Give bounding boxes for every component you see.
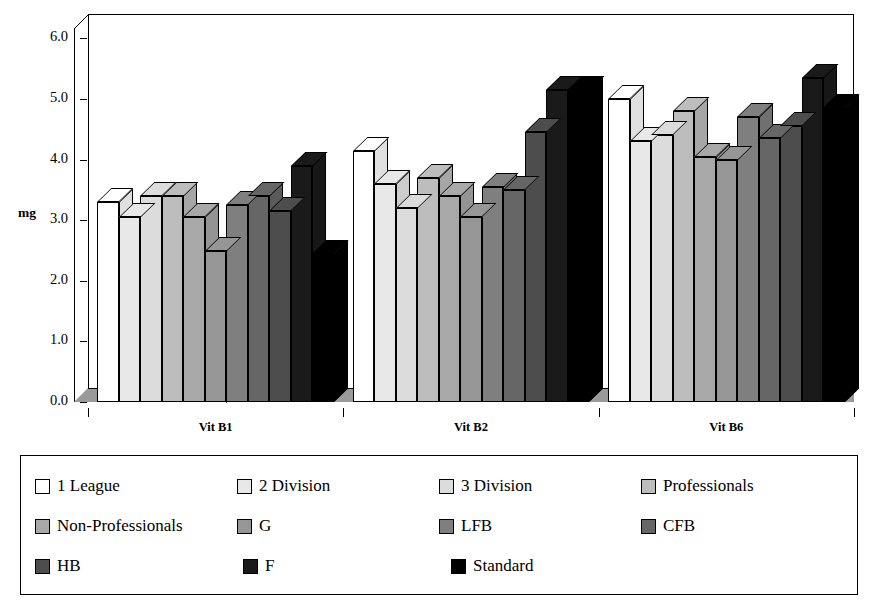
bar-front-face	[608, 99, 630, 402]
legend-swatch-icon	[641, 519, 656, 534]
bar-front-face	[183, 217, 205, 402]
legend-swatch-icon	[35, 519, 50, 534]
bar-front-face	[759, 138, 781, 402]
legend-swatch-icon	[237, 479, 252, 494]
bar-front-face	[482, 187, 504, 402]
y-axis-tick	[80, 160, 87, 161]
y-axis-tick-label: 4.0	[26, 153, 68, 163]
legend-swatch-icon	[641, 479, 656, 494]
y-axis-tick-label: 1.0	[26, 334, 68, 344]
bar-front-face	[374, 184, 396, 402]
bar-front-face	[439, 196, 461, 402]
bar-front-face	[802, 78, 824, 402]
legend-label: Professionals	[663, 477, 754, 495]
y-axis-tick	[80, 402, 87, 403]
y-axis-tick	[80, 38, 87, 39]
y-axis-tick	[80, 281, 87, 282]
legend-item[interactable]: LFB	[439, 517, 641, 535]
legend-item[interactable]: Non-Professionals	[35, 517, 237, 535]
bar-front-face	[396, 208, 418, 402]
bar-side-face	[845, 95, 859, 402]
legend-label: 2 Division	[259, 477, 330, 495]
legend-label: 3 Division	[461, 477, 532, 495]
legend-label: F	[265, 557, 274, 575]
bar-front-face	[248, 196, 270, 402]
bar-front-face	[780, 126, 802, 402]
legend-swatch-icon	[35, 479, 50, 494]
y-axis-labels: 0.01.02.03.04.05.06.0	[12, 0, 68, 445]
bar-front-face	[312, 254, 334, 402]
legend-item[interactable]: Professionals	[641, 477, 843, 495]
legend-item[interactable]: G	[237, 517, 439, 535]
axis-depth-diagonal	[74, 14, 94, 29]
bar-front-face	[630, 141, 652, 402]
bar-front-face	[525, 132, 547, 402]
legend-item[interactable]: F	[243, 557, 451, 575]
bar-front-face	[673, 111, 695, 402]
legend-label: LFB	[461, 517, 492, 535]
legend-row: Non-ProfessionalsGLFBCFB	[35, 506, 843, 546]
legend-item[interactable]: Standard	[451, 557, 659, 575]
y-axis-tick	[80, 220, 87, 221]
bar-front-face	[503, 190, 525, 402]
y-axis-tick-label: 2.0	[26, 274, 68, 284]
x-axis-category-label: Vit B1	[88, 420, 343, 435]
legend-item[interactable]: CFB	[641, 517, 843, 535]
y-axis-tick	[80, 99, 87, 100]
bar-front-face	[97, 202, 119, 402]
bar-front-face	[737, 117, 759, 402]
bar-front-face	[823, 108, 845, 402]
x-axis-tick	[88, 408, 89, 417]
legend-item[interactable]: 2 Division	[237, 477, 439, 495]
y-axis-tick	[80, 341, 87, 342]
bar-front-face	[716, 160, 738, 402]
x-axis-tick	[599, 408, 600, 417]
legend-item[interactable]: HB	[35, 557, 243, 575]
bar-front-face	[140, 196, 162, 402]
legend-row: 1 League2 Division3 DivisionProfessional…	[35, 466, 843, 506]
floor-left-wedge	[74, 388, 88, 402]
legend-label: G	[259, 517, 271, 535]
x-axis-tick	[854, 408, 855, 417]
legend-swatch-icon	[237, 519, 252, 534]
legend-row: HBFStandard	[35, 546, 843, 586]
legend-swatch-icon	[439, 519, 454, 534]
legend-swatch-icon	[243, 559, 258, 574]
bar-front-face	[353, 151, 375, 402]
y-axis-tick-label: 6.0	[26, 31, 68, 41]
x-axis-category-label: Vit B6	[599, 420, 854, 435]
legend-item[interactable]: 1 League	[35, 477, 237, 495]
bar-front-face	[651, 135, 673, 402]
x-axis-category-label: Vit B2	[343, 420, 598, 435]
legend-label: CFB	[663, 517, 695, 535]
legend-label: HB	[57, 557, 81, 575]
bar-front-face	[694, 157, 716, 402]
plot-area: 0.01.02.03.04.05.06.0 mg Vit B1Vit B2Vit…	[0, 0, 878, 445]
x-axis-tick	[343, 408, 344, 417]
legend-label: Non-Professionals	[57, 517, 183, 535]
chart-page: 0.01.02.03.04.05.06.0 mg Vit B1Vit B2Vit…	[0, 0, 878, 614]
legend-item[interactable]: 3 Division	[439, 477, 641, 495]
bar-side-face	[589, 76, 603, 402]
legend-label: 1 League	[57, 477, 120, 495]
bar-front-face	[460, 217, 482, 402]
bar-front-face	[205, 251, 227, 403]
bar-front-face	[162, 196, 184, 402]
bar-front-face	[546, 90, 568, 402]
legend-swatch-icon	[35, 559, 50, 574]
y-axis-tick-label: 0.0	[26, 395, 68, 405]
legend: 1 League2 Division3 DivisionProfessional…	[20, 455, 858, 595]
legend-swatch-icon	[451, 559, 466, 574]
y-axis-tick-label: 5.0	[26, 92, 68, 102]
bar-front-face	[417, 178, 439, 402]
legend-label: Standard	[473, 557, 533, 575]
bar-front-face	[119, 217, 141, 402]
bar-front-face	[568, 90, 590, 402]
bar-front-face	[269, 211, 291, 402]
bar-side-face	[334, 240, 348, 402]
y-axis-title: mg	[18, 205, 36, 221]
bar-front-face	[226, 205, 248, 402]
y-axis-line	[74, 28, 75, 402]
legend-swatch-icon	[439, 479, 454, 494]
